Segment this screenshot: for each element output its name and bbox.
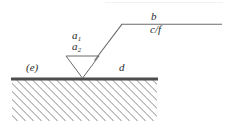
label-c-over-f: c/f — [150, 24, 161, 35]
hatched-ground-region — [12, 80, 157, 121]
label-a2: a2 — [72, 41, 81, 52]
diagonal-ramp-line — [95, 24, 123, 60]
label-a2-subscript: 2 — [78, 46, 81, 53]
diagram-canvas: b c/f a1 a2 (e) d — [0, 0, 230, 129]
scan-artifact — [105, 2, 223, 3]
label-b: b — [151, 11, 157, 22]
label-d: d — [119, 62, 125, 73]
inverted-triangle-wedge — [66, 56, 99, 78]
label-a2-base: a — [72, 40, 78, 52]
label-e: (e) — [26, 62, 38, 73]
